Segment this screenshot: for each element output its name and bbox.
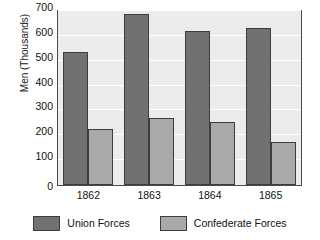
bar-1862-union[interactable] (63, 52, 88, 185)
legend-label: Confederate Forces (194, 217, 287, 229)
x-axis-tick-label-1864: 1864 (180, 189, 241, 202)
x-axis-tick-label-1862: 1862 (58, 189, 119, 202)
bar-1864-union[interactable] (185, 31, 210, 185)
bar-1865-union[interactable] (246, 28, 271, 185)
y-axis-tick-labels: 100200300400500600700 (0, 10, 53, 186)
legend-label: Union Forces (67, 217, 129, 229)
legend-item-union[interactable]: Union Forces (33, 216, 129, 231)
y-axis-tick-label: 200 (0, 126, 53, 136)
y-axis-tick-label: 400 (0, 77, 53, 87)
chart-legend: Union ForcesConfederate Forces (0, 212, 320, 234)
x-axis-tick-label-1863: 1863 (119, 189, 180, 202)
bar-1864-confederate[interactable] (210, 122, 235, 185)
x-axis-tick-label-1865: 1865 (240, 189, 301, 202)
y-axis-tick-label: 700 (0, 2, 53, 12)
y-axis-tick-label-zero: 0 (0, 181, 53, 191)
bar-1863-confederate[interactable] (149, 118, 174, 185)
legend-swatch-icon (160, 216, 187, 231)
legend-swatch-icon (33, 216, 60, 231)
y-axis-tick-label: 100 (0, 151, 53, 161)
y-axis-tick-label: 500 (0, 52, 53, 62)
bar-chart: Men (Thousands) 100200300400500600700 18… (0, 0, 320, 240)
bar-1863-union[interactable] (124, 14, 149, 186)
x-axis-tick-labels: 1862186318641865 (58, 189, 301, 203)
bars-layer (58, 11, 301, 185)
legend-item-confederate[interactable]: Confederate Forces (160, 216, 287, 231)
y-axis-tick-label: 600 (0, 27, 53, 37)
y-axis-tick-label: 300 (0, 101, 53, 111)
bar-1862-confederate[interactable] (88, 129, 113, 185)
bar-1865-confederate[interactable] (271, 142, 296, 186)
